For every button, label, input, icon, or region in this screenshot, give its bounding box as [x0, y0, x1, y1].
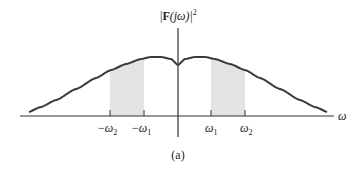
y-axis-label: |F(jω)|2 — [160, 8, 197, 23]
tick-label-neg-omega2: −ω2 — [98, 121, 117, 137]
shaded-band-positive — [211, 58, 245, 116]
tick-label-omega2: ω2 — [240, 121, 252, 137]
figure-caption: (a) — [171, 148, 184, 162]
x-axis-label: ω — [338, 109, 346, 123]
shaded-band-negative — [110, 58, 144, 116]
power-spectrum-diagram: |F(jω)|2 ω −ω2 −ω1 ω1 ω2 (a) — [0, 0, 363, 174]
tick-label-omega1: ω1 — [205, 121, 217, 137]
tick-label-neg-omega1: −ω1 — [132, 121, 151, 137]
